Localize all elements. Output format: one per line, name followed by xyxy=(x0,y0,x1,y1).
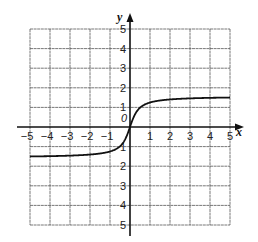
x-tick-label: −4 xyxy=(41,130,54,142)
y-tick-label: 4 xyxy=(120,43,126,55)
y-tick-label: 1 xyxy=(120,101,126,113)
x-axis-label: x xyxy=(235,125,242,139)
y-axis-arrow-icon xyxy=(127,13,134,22)
x-tick-label: −3 xyxy=(61,130,74,142)
y-tick-label: 5 xyxy=(120,219,126,231)
x-tick-label: −5 xyxy=(21,130,34,142)
y-tick-label: 4 xyxy=(120,199,126,211)
x-tick-label: −2 xyxy=(81,130,94,142)
y-tick-label: 5 xyxy=(120,23,126,35)
x-tick-label: 1 xyxy=(147,130,153,142)
x-tick-label: 3 xyxy=(187,130,193,142)
y-axis-label: y xyxy=(115,10,123,24)
origin-label: 0 xyxy=(121,112,128,124)
y-tick-label: 3 xyxy=(120,62,126,74)
x-tick-label: 5 xyxy=(227,130,233,142)
y-tick-label: 2 xyxy=(120,82,126,94)
y-tick-label: 2 xyxy=(120,160,126,172)
x-tick-label: 2 xyxy=(167,130,173,142)
x-tick-label: −1 xyxy=(101,130,114,142)
y-tick-label: 3 xyxy=(120,180,126,192)
x-tick-label: 4 xyxy=(207,130,213,142)
coordinate-plane: x y 0 −5−4−3−2−112345 5432112345 xyxy=(0,0,258,242)
